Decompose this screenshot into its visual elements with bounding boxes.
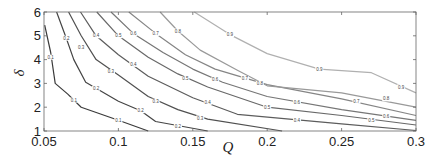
y-axis-label: δ	[11, 68, 27, 76]
x-tick-label: 0.3	[407, 134, 425, 149]
contour-label: 0.5	[368, 118, 375, 123]
y-tick-label: 2	[34, 100, 41, 115]
x-tick-label: 0.2	[258, 134, 276, 149]
contour-label: 0.7	[353, 99, 360, 104]
contour-label: 0.9	[227, 32, 234, 37]
contour-label: 0.8	[257, 81, 264, 86]
contour-label: 0.2	[63, 36, 70, 41]
contour-chart: 0.10.10.10.20.20.20.20.30.30.30.30.40.40…	[0, 0, 441, 156]
plot-area: 0.10.10.10.20.20.20.20.30.30.30.30.40.40…	[44, 12, 416, 131]
contour-label: 0.3	[108, 69, 115, 74]
contour-label: 0.2	[138, 108, 145, 113]
x-axis-label: Q	[223, 139, 234, 155]
contour-label: 0.2	[93, 86, 100, 91]
contour-label: 0.6	[294, 100, 301, 105]
y-tick-label: 3	[34, 76, 41, 91]
contour-label: 0.3	[78, 45, 85, 50]
contour-label: 0.8	[175, 29, 182, 34]
contour-label: 0.9	[398, 85, 405, 90]
contour-label: 0.4	[294, 118, 301, 123]
contour-label: 0.1	[48, 55, 55, 60]
contour-label: 0.7	[152, 31, 159, 36]
contour-label: 0.5	[115, 33, 122, 38]
contour-label: 0.5	[264, 105, 271, 110]
contour-label: 0.4	[93, 33, 100, 38]
y-tick-label: 5	[34, 28, 41, 43]
x-tick-label: 0.1	[109, 134, 127, 149]
contour-label: 0.6	[383, 114, 390, 119]
contour-label: 0.3	[152, 99, 159, 104]
contour-label: 0.8	[383, 96, 390, 101]
contour-label: 0.7	[242, 76, 249, 81]
contour-label: 0.2	[175, 124, 182, 129]
contour-label: 0.1	[115, 118, 122, 123]
contour-label: 0.9	[316, 67, 323, 72]
contour-label: 0.6	[212, 77, 219, 82]
contour-label: 0.4	[130, 62, 137, 67]
y-tick-label: 4	[34, 52, 41, 67]
y-tick-label: 1	[34, 124, 41, 139]
contour-label: 0.4	[205, 100, 212, 105]
contour-label: 0.6	[130, 31, 137, 36]
contour-label: 0.5	[182, 76, 189, 81]
y-tick-label: 6	[34, 5, 41, 20]
contour-label: 0.3	[197, 116, 204, 121]
x-tick-label: 0.25	[329, 134, 354, 149]
contour-label: 0.1	[71, 98, 78, 103]
x-tick-label: 0.15	[180, 134, 205, 149]
